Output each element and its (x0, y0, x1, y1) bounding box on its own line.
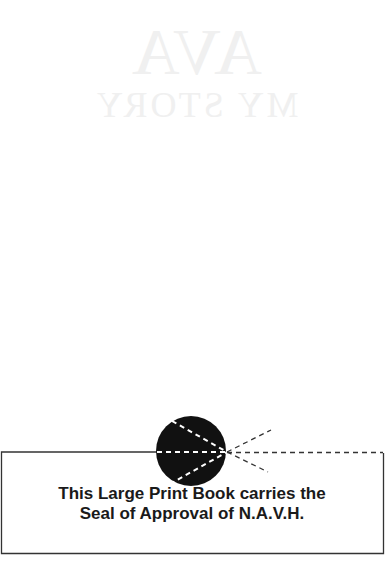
seal-notice-line-2: Seal of Approval of N.A.V.H. (0, 504, 384, 524)
seal-notice-line-1: This Large Print Book carries the (0, 484, 384, 504)
eye-seal-icon (156, 416, 271, 486)
seal-notice-text: This Large Print Book carries the Seal o… (0, 484, 384, 524)
